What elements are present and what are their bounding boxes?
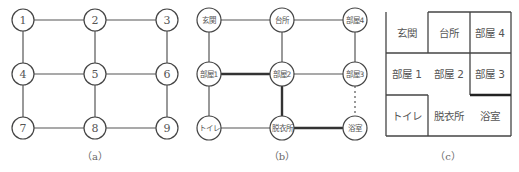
node-bathroom: 浴室: [343, 116, 367, 140]
svg-text:部屋4: 部屋4: [346, 15, 365, 25]
room-toilet: トイレ: [392, 110, 422, 122]
node-a-2: 2: [84, 9, 106, 31]
caption-b: （b）: [269, 151, 295, 162]
panel-b-room-graph: 玄関 台所 部屋4 部屋1 部屋2 部屋3 トイレ 脱衣所 浴室 （b）: [197, 8, 367, 162]
room-2: 部屋 2: [434, 68, 464, 80]
svg-text:7: 7: [20, 122, 27, 135]
svg-text:部屋2: 部屋2: [273, 69, 292, 79]
node-a-1: 1: [12, 9, 34, 31]
node-a-7: 7: [12, 117, 34, 139]
figure: 1 2 3 4 5 6 7 8 9 （a） 玄関 台所 部屋4 部屋1 部屋2 …: [0, 0, 519, 172]
caption-a: （a）: [82, 151, 108, 162]
svg-text:台所: 台所: [275, 15, 290, 25]
svg-text:3: 3: [164, 14, 171, 27]
node-datsuijo: 脱衣所: [270, 116, 294, 140]
svg-text:脱衣所: 脱衣所: [272, 123, 294, 133]
svg-text:2: 2: [92, 14, 99, 27]
svg-text:8: 8: [92, 122, 99, 135]
node-a-9: 9: [156, 117, 178, 139]
svg-text:1: 1: [20, 14, 27, 27]
room-1: 部屋 1: [392, 68, 422, 80]
room-4: 部屋 4: [475, 27, 505, 39]
node-genkan: 玄関: [197, 8, 221, 32]
svg-text:玄関: 玄関: [202, 15, 216, 25]
svg-text:4: 4: [20, 68, 27, 81]
node-a-5: 5: [84, 63, 106, 85]
panel-a-grid-graph: 1 2 3 4 5 6 7 8 9 （a）: [12, 9, 178, 162]
svg-text:部屋1: 部屋1: [200, 69, 219, 79]
svg-text:トイレ: トイレ: [199, 124, 220, 133]
node-a-6: 6: [156, 63, 178, 85]
node-room4: 部屋4: [343, 8, 367, 32]
room-genkan: 玄関: [397, 27, 417, 39]
svg-text:部屋3: 部屋3: [346, 69, 365, 79]
node-a-4: 4: [12, 63, 34, 85]
room-3: 部屋 3: [475, 68, 505, 80]
svg-text:9: 9: [164, 122, 171, 135]
node-a-3: 3: [156, 9, 178, 31]
svg-text:6: 6: [164, 68, 171, 81]
svg-text:5: 5: [92, 68, 99, 81]
svg-text:浴室: 浴室: [348, 123, 363, 133]
node-a-8: 8: [84, 117, 106, 139]
caption-c: （c）: [435, 151, 461, 162]
node-room2: 部屋2: [270, 62, 294, 86]
room-daidokoro: 台所: [439, 27, 460, 39]
room-datsuijo: 脱衣所: [434, 110, 465, 122]
node-room1: 部屋1: [197, 62, 221, 86]
node-toilet: トイレ: [197, 116, 221, 140]
panel-c-floor-plan: 玄関 台所 部屋 4 部屋 1 部屋 2 部屋 3 トイレ 脱衣所 浴室 （c）: [386, 12, 511, 162]
node-daidokoro: 台所: [270, 8, 294, 32]
node-room3: 部屋3: [343, 62, 367, 86]
room-bathroom: 浴室: [480, 110, 500, 122]
